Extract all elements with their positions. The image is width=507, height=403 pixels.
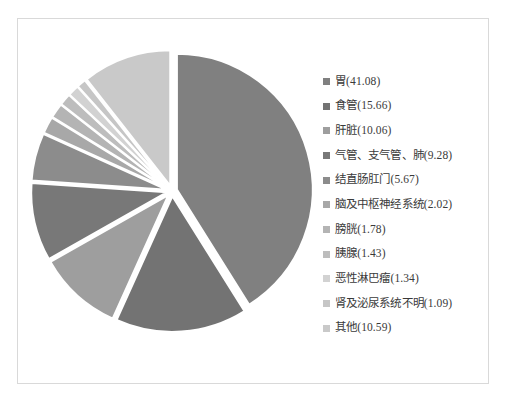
legend-item[interactable]: 食管(15.66) bbox=[323, 94, 491, 119]
chart-frame: 胃(41.08)食管(15.66)肝脏(10.06)气管、支气管、肺(9.28)… bbox=[17, 18, 489, 384]
legend-swatch-icon bbox=[323, 325, 330, 332]
legend-swatch-icon bbox=[323, 177, 330, 184]
legend-item-label: 膀胱(1.78) bbox=[335, 224, 386, 236]
legend-swatch-icon bbox=[323, 201, 330, 208]
legend-item-label: 脑及中枢神经系统(2.02) bbox=[335, 199, 452, 211]
legend-item[interactable]: 脑及中枢神经系统(2.02) bbox=[323, 192, 491, 217]
legend-swatch-icon bbox=[323, 127, 330, 134]
plot-area: 胃(41.08)食管(15.66)肝脏(10.06)气管、支气管、肺(9.28)… bbox=[18, 19, 490, 385]
legend-item[interactable]: 恶性淋巴瘤(1.34) bbox=[323, 267, 491, 292]
legend-item-label: 气管、支气管、肺(9.28) bbox=[335, 150, 452, 162]
legend-item-label: 肾及泌尿系统不明(1.09) bbox=[335, 298, 452, 310]
legend-item-label: 其他(10.59) bbox=[335, 322, 391, 334]
legend-item[interactable]: 其他(10.59) bbox=[323, 316, 491, 341]
legend-item-label: 胰腺(1.43) bbox=[335, 248, 386, 260]
chart-legend: 胃(41.08)食管(15.66)肝脏(10.06)气管、支气管、肺(9.28)… bbox=[323, 69, 491, 341]
legend-swatch-icon bbox=[323, 300, 330, 307]
legend-swatch-icon bbox=[323, 78, 330, 85]
pie-chart bbox=[22, 41, 322, 341]
legend-item-label: 胃(41.08) bbox=[335, 76, 380, 88]
legend-item[interactable]: 气管、支气管、肺(9.28) bbox=[323, 143, 491, 168]
legend-swatch-icon bbox=[323, 226, 330, 233]
legend-swatch-icon bbox=[323, 152, 330, 159]
legend-item[interactable]: 膀胱(1.78) bbox=[323, 217, 491, 242]
legend-swatch-icon bbox=[323, 103, 330, 110]
legend-item-label: 食管(15.66) bbox=[335, 100, 391, 112]
legend-swatch-icon bbox=[323, 275, 330, 282]
legend-item[interactable]: 肝脏(10.06) bbox=[323, 118, 491, 143]
legend-item[interactable]: 肾及泌尿系统不明(1.09) bbox=[323, 291, 491, 316]
legend-item-label: 结直肠肛门(5.67) bbox=[335, 174, 419, 186]
legend-item[interactable]: 结直肠肛门(5.67) bbox=[323, 168, 491, 193]
legend-item-label: 肝脏(10.06) bbox=[335, 125, 391, 137]
legend-swatch-icon bbox=[323, 251, 330, 258]
legend-item[interactable]: 胃(41.08) bbox=[323, 69, 491, 94]
legend-item[interactable]: 胰腺(1.43) bbox=[323, 242, 491, 267]
legend-item-label: 恶性淋巴瘤(1.34) bbox=[335, 273, 419, 285]
